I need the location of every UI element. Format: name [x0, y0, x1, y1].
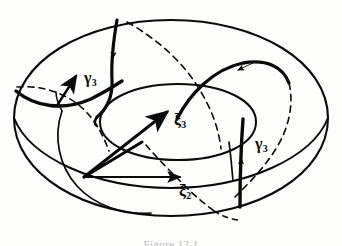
xi3-label: ξ3 — [174, 112, 186, 128]
gamma3-top-tail-curve — [95, 117, 97, 126]
xi3-vector-arrow[interactable] — [84, 112, 167, 177]
xi2-label: ξ2 — [179, 183, 191, 199]
gamma3-left-symbol: γ — [84, 69, 91, 86]
xi2-subscript: 2 — [186, 190, 191, 201]
figure-caption: Figure 13.1 — [0, 238, 342, 246]
gamma3-left-subscript: 3 — [92, 77, 97, 88]
gamma3-right-vertical-curve — [240, 119, 243, 207]
gamma3-left-arrow-shaft[interactable] — [58, 76, 76, 104]
gamma3-right-subscript: 3 — [263, 143, 268, 154]
gamma3-upper-right-curve — [177, 62, 289, 119]
torus-diagram-svg — [0, 0, 342, 246]
inner-wall-edge-right — [229, 142, 233, 181]
gamma3-right-symbol: γ — [255, 135, 262, 152]
gamma3-right-label: γ3 — [255, 136, 267, 152]
gamma3-top-descending-curve — [97, 20, 117, 117]
torus-outer-silhouette — [14, 20, 328, 216]
hidden-curve-bottom-right-dashed — [214, 211, 238, 220]
basepoint-wedge — [84, 142, 142, 177]
gamma3-left-label: γ3 — [84, 70, 96, 86]
figure-container: γ3 γ3 ξ3 ξ2 Figure 13.1 — [0, 0, 342, 246]
xi3-subscript: 3 — [181, 119, 186, 130]
